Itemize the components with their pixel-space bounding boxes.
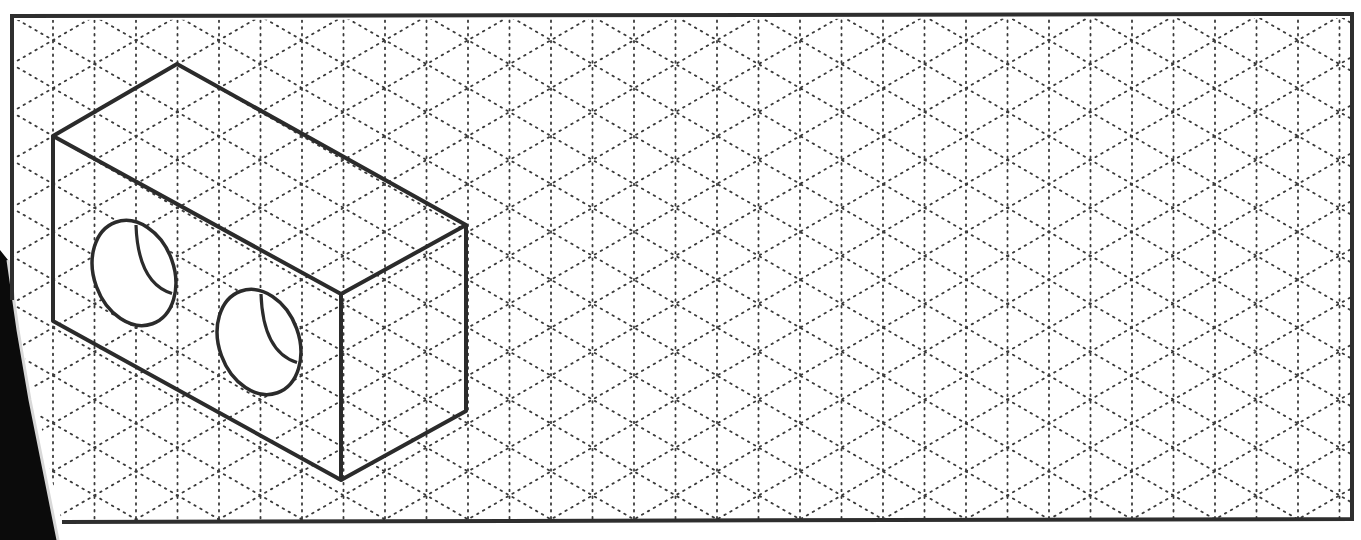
grid-line [0,0,1361,502]
grid-line [0,0,1361,262]
grid-line [0,243,1361,540]
through-hole-1 [78,209,190,338]
grid-line [0,297,1361,540]
grid-line [0,0,1361,23]
grid-line [0,0,1361,406]
grid-line [0,100,1361,540]
grid-line [0,0,1361,71]
grid-line [0,195,1361,540]
grid-line [0,0,1361,310]
rectangular-block [53,64,466,480]
grid-line [0,531,1361,540]
grid-line [0,105,1361,540]
grid-line [0,0,1361,454]
grid-line [0,52,1361,540]
grid-line [0,339,1361,540]
grid-line [0,153,1361,540]
grid-line [0,0,1361,124]
grid-line [0,10,1361,540]
grid-line [0,0,1361,364]
grid-line [0,0,1361,220]
grid-line [0,489,1361,540]
grid-line [0,201,1361,540]
grid-line [0,291,1361,540]
through-hole-2 [203,278,315,407]
worksheet-border [12,14,1352,522]
grid-line [0,57,1361,540]
grid-line [0,0,1361,172]
grid-line [0,0,1361,119]
grid-line [0,0,1361,77]
grid-line [0,0,1361,167]
block-side-face [341,225,466,480]
grid-line [0,0,1361,412]
isometric-drawing-canvas [0,0,1361,540]
grid-line [0,0,1361,215]
grid-line [0,441,1361,540]
grid-line [0,0,1361,268]
grid-line [0,0,1361,508]
grid-line [0,4,1361,540]
grid-line [0,0,1361,358]
grid-line [0,345,1361,540]
grid-line [0,148,1361,540]
grid-line [0,249,1361,540]
grid-line [0,0,1361,460]
grid-line [0,483,1361,540]
grid-line [0,387,1361,540]
isometric-worksheet [0,0,1361,540]
grid-line [0,435,1361,540]
block-front-face [53,136,341,480]
grid-line [0,0,1361,316]
